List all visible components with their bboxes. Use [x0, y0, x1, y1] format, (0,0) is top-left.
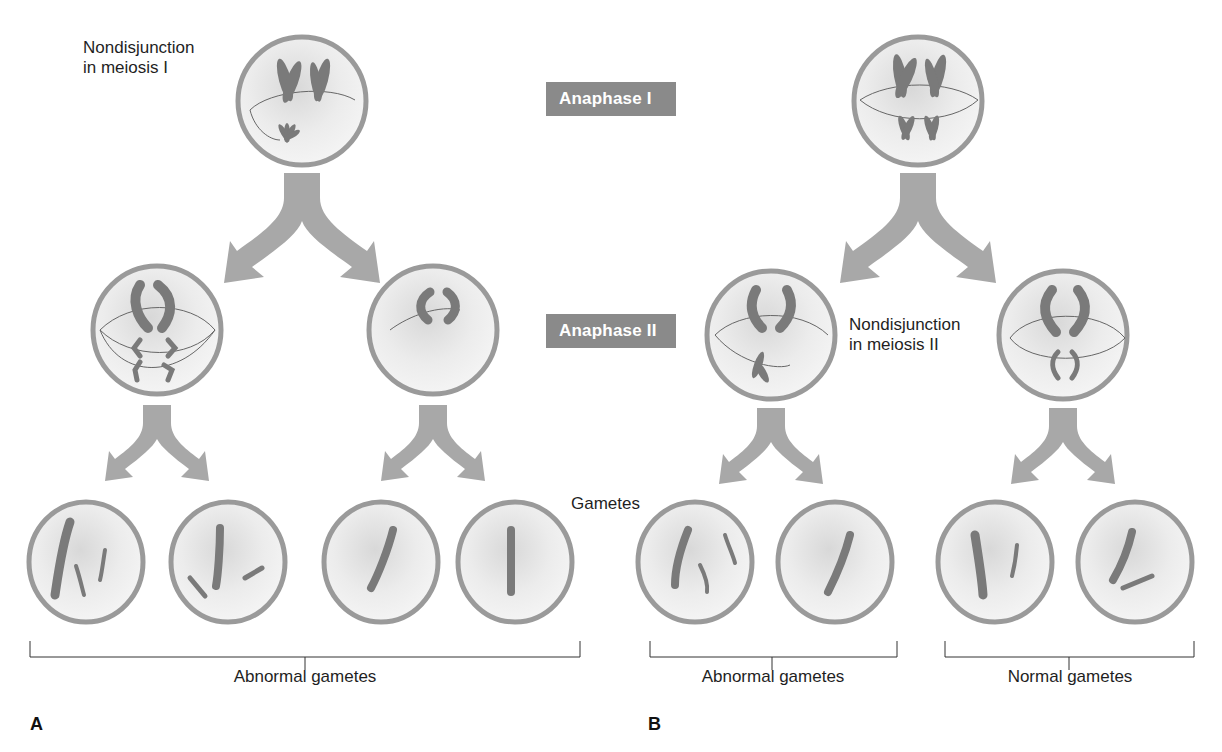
panel-letter-a: A	[30, 714, 43, 735]
cell-b-anaphase1	[854, 37, 982, 165]
arrow-split-b-left	[719, 408, 823, 484]
group-label-a-abnormal: Abnormal gametes	[180, 667, 430, 687]
arrow-split-a-right	[381, 405, 485, 481]
gamete-b1	[638, 502, 752, 622]
cell-a-anaphase2-right	[369, 266, 497, 394]
annotation-line1: Nondisjunction	[83, 38, 195, 58]
gamete-b2	[778, 502, 892, 622]
annotation-line2: in meiosis II	[849, 335, 961, 355]
annotation-line2: in meiosis I	[83, 58, 195, 78]
bracket-b-abnormal	[650, 641, 897, 670]
annotation-line1: Nondisjunction	[849, 315, 961, 335]
cell-b-anaphase2-right	[999, 271, 1127, 399]
bracket-b-normal	[945, 641, 1194, 670]
arrow-split-b-top	[840, 173, 996, 283]
arrow-split-a-left	[105, 405, 209, 481]
annotation-nondisjunction-meiosis2: Nondisjunction in meiosis II	[849, 315, 961, 355]
group-label-b-normal: Normal gametes	[945, 667, 1195, 687]
gamete-b3	[938, 502, 1052, 622]
panel-letter-b: B	[648, 714, 661, 735]
cell-a-anaphase1	[238, 37, 366, 165]
arrow-split-b-right	[1011, 408, 1115, 484]
gamete-a1	[29, 502, 143, 622]
group-label-b-abnormal: Abnormal gametes	[648, 667, 898, 687]
gamete-a4	[458, 502, 572, 622]
arrow-split-a-top	[224, 173, 380, 283]
stage-label-anaphase2: Anaphase II	[546, 314, 676, 348]
cell-b-anaphase2-left	[707, 271, 835, 399]
annotation-nondisjunction-meiosis1: Nondisjunction in meiosis I	[83, 38, 195, 78]
bracket-a-abnormal	[30, 641, 580, 670]
cell-a-anaphase2-left	[93, 266, 221, 394]
gamete-a3	[324, 502, 438, 622]
gamete-a2	[171, 502, 285, 622]
gamete-b4	[1078, 502, 1192, 622]
gametes-label: Gametes	[571, 494, 640, 514]
stage-label-anaphase1: Anaphase I	[546, 82, 676, 116]
